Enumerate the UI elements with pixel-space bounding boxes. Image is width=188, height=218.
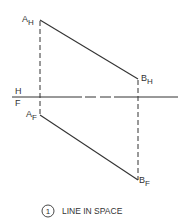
label-f: F (15, 98, 21, 108)
label-b-f: BF (139, 175, 150, 188)
label-a-h: AH (22, 14, 34, 27)
diagram-canvas: AH BH AF BF H F 1 LINE IN SPACE (0, 0, 188, 218)
line-ab-top-view (40, 20, 138, 79)
caption: LINE IN SPACE (62, 206, 123, 216)
figure-number: 1 (46, 207, 51, 216)
line-ab-front-view (40, 115, 138, 180)
label-a-f: AF (26, 109, 37, 122)
label-b-h: BH (141, 73, 153, 86)
label-h: H (15, 86, 22, 96)
line-in-space-diagram: AH BH AF BF H F 1 LINE IN SPACE (0, 0, 188, 218)
